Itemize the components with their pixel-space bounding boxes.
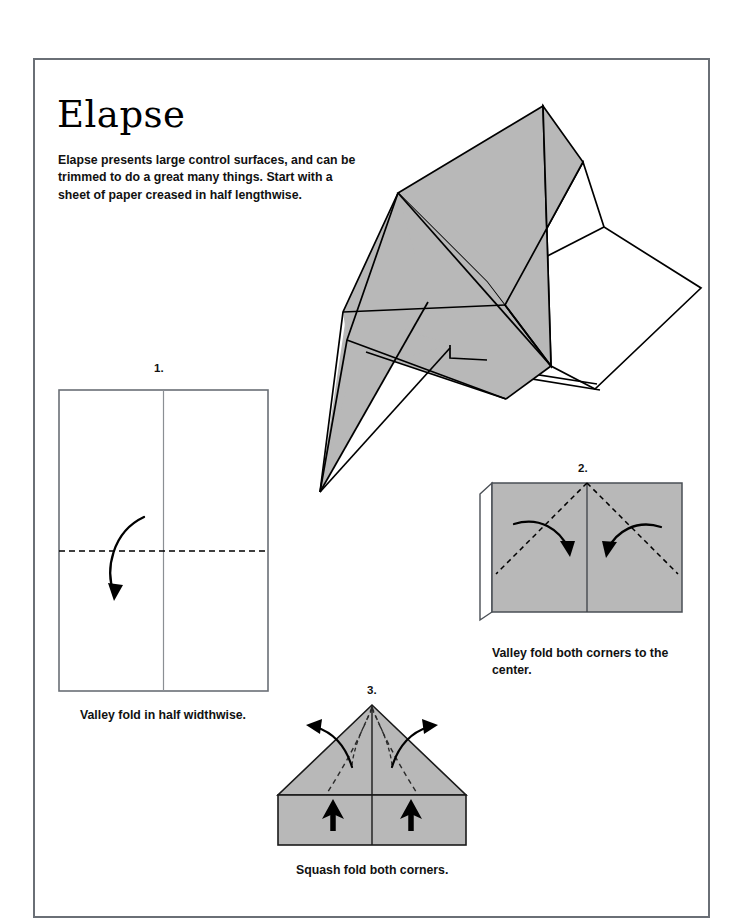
finished-paper-airplane-illustration xyxy=(300,90,720,510)
page-title: Elapse xyxy=(57,96,185,133)
step-3-diagram xyxy=(262,695,487,855)
step-3-caption: Squash fold both corners. xyxy=(296,862,556,879)
step-1-number: 1. xyxy=(154,362,164,374)
step-2-caption: Valley fold both corners to the center. xyxy=(492,645,697,680)
step-2-diagram xyxy=(478,472,700,632)
step-2-back-layer-sliver xyxy=(480,483,492,620)
step-1-diagram xyxy=(50,380,282,705)
